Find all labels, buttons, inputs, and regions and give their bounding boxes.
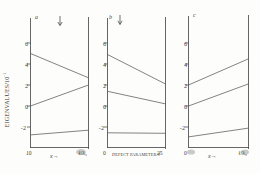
panel-c-xtick-right: ℓ/λ₀ bbox=[238, 150, 247, 156]
panel-c-series-3 bbox=[189, 128, 249, 137]
panel-c-series-2 bbox=[189, 84, 249, 106]
panel-b-ytick-2: 2 bbox=[94, 82, 106, 89]
panel-b-x-axis-label-text: DEFECT PARAMETER/ bbox=[112, 152, 158, 157]
panel-a: a 6 4 2 0 -2 bbox=[0, 0, 95, 174]
panel-a-series-1 bbox=[31, 54, 89, 78]
panel-c-ytick-4: 4 bbox=[175, 61, 187, 68]
panel-a-ytick-0: 0 bbox=[16, 103, 28, 110]
panel-b-ytick-minus2: -2 bbox=[92, 124, 104, 131]
panel-a-ytick-minus2: -2 bbox=[14, 124, 26, 131]
panel-b-series-3 bbox=[108, 133, 166, 134]
panel-a-x-axis-label: x→ bbox=[50, 153, 59, 159]
panel-a-series-2 bbox=[31, 85, 89, 106]
panel-c-ytick-minus2: -2 bbox=[173, 124, 185, 131]
panel-c-ytick-2: 2 bbox=[175, 82, 187, 89]
panel-b: b 6 4 2 0 -2 0 25 DEFECT PARAMETER/T bbox=[95, 0, 175, 174]
panel-b-ytick-4: 4 bbox=[94, 61, 106, 68]
panel-a-xtick-left: 10 bbox=[26, 150, 32, 156]
panel-c-plot bbox=[175, 0, 260, 174]
panel-b-series-2 bbox=[108, 91, 166, 104]
panel-b-plot bbox=[95, 0, 175, 174]
panel-b-ytick-6: 6 bbox=[94, 40, 106, 47]
panel-c-series-1 bbox=[189, 59, 249, 85]
panel-a-ytick-2: 2 bbox=[16, 82, 28, 89]
panel-b-x-axis-label: DEFECT PARAMETER/T bbox=[112, 152, 160, 157]
panel-c-x-axis-label: x→ bbox=[208, 153, 217, 159]
panel-a-x-axis-arrow: → bbox=[53, 153, 59, 159]
panel-b-ytick-0: 0 bbox=[94, 103, 106, 110]
panel-c-ytick-0: 0 bbox=[175, 103, 187, 110]
panel-c-ytick-6: 6 bbox=[175, 40, 187, 47]
panel-c-x-axis-arrow: → bbox=[211, 153, 217, 159]
figure-canvas: EIGENVALUES/10-1 a bbox=[0, 0, 260, 174]
panel-a-xtick-right: ℓ/λ₀ bbox=[78, 150, 87, 156]
panel-a-ytick-6: 6 bbox=[16, 40, 28, 47]
panel-c-xtick-left: 0 bbox=[184, 150, 187, 156]
panel-c: c 6 4 2 0 -2 0 ℓ/λ₀ x→ bbox=[175, 0, 260, 174]
panel-a-ytick-4: 4 bbox=[16, 61, 28, 68]
panel-a-plot bbox=[0, 0, 95, 174]
panel-a-series-3 bbox=[31, 130, 89, 135]
panel-b-series-1 bbox=[108, 55, 166, 85]
panel-b-x-axis-label-symbol: T bbox=[158, 152, 161, 157]
panel-b-xtick-left: 0 bbox=[103, 150, 106, 156]
scan-smudge-left bbox=[187, 149, 195, 154]
